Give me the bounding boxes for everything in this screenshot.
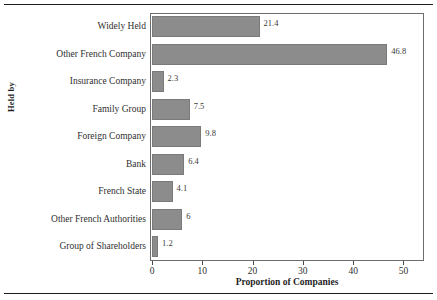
x-axis-title: Proportion of Companies	[150, 277, 424, 287]
bar	[152, 236, 158, 257]
bar-value-label: 6	[186, 211, 190, 221]
y-axis-title: Held by	[6, 82, 16, 112]
x-tick-mark	[253, 261, 254, 265]
category-label: Insurance Company	[70, 76, 146, 87]
x-tick-mark	[303, 261, 304, 265]
category-label: Bank	[126, 159, 146, 170]
bar	[152, 154, 184, 175]
category-label: Foreign Company	[77, 131, 146, 142]
bar	[152, 209, 182, 230]
bar-value-label: 21.4	[264, 18, 279, 28]
x-tick-label: 20	[248, 266, 258, 277]
bar	[152, 44, 387, 65]
bar	[152, 16, 260, 37]
bar-value-label: 46.8	[391, 46, 406, 56]
bar-value-label: 4.1	[177, 183, 188, 193]
x-tick-label: 40	[348, 266, 358, 277]
category-label: Other French Company	[56, 49, 146, 60]
bars-layer: 21.446.82.37.59.86.44.161.2	[150, 13, 424, 261]
bar-value-label: 2.3	[168, 73, 179, 83]
bar	[152, 181, 173, 202]
bar-value-label: 7.5	[194, 101, 205, 111]
category-label: Family Group	[92, 104, 146, 115]
bar-value-label: 1.2	[162, 238, 173, 248]
bar	[152, 126, 201, 147]
bar-value-label: 6.4	[188, 156, 199, 166]
category-label: French State	[98, 186, 146, 197]
bar	[152, 71, 164, 92]
top-divider-rule	[4, 4, 433, 5]
x-tick-mark	[403, 261, 404, 265]
bar-row: 1.2	[150, 233, 424, 261]
x-tick-mark	[202, 261, 203, 265]
x-tick-mark	[353, 261, 354, 265]
category-label: Group of Shareholders	[59, 241, 146, 252]
bar-row: 46.8	[150, 41, 424, 69]
bar-row: 7.5	[150, 96, 424, 124]
x-tick-label: 10	[198, 266, 208, 277]
bar-row: 2.3	[150, 68, 424, 96]
category-label: Widely Held	[98, 21, 146, 32]
x-tick-mark	[152, 261, 153, 265]
bar-row: 6.4	[150, 151, 424, 179]
x-tick-label: 0	[150, 266, 155, 277]
x-tick-label: 50	[399, 266, 409, 277]
x-tick-label: 30	[298, 266, 308, 277]
bar-row: 6	[150, 206, 424, 234]
bar-row: 4.1	[150, 178, 424, 206]
bar-value-label: 9.8	[205, 128, 216, 138]
bar-row: 9.8	[150, 123, 424, 151]
category-label: Other French Authorities	[51, 214, 146, 225]
bar	[152, 99, 190, 120]
bar-row: 21.4	[150, 13, 424, 41]
chart-figure: Held by 21.446.82.37.59.86.44.161.2 Wide…	[0, 0, 437, 300]
bottom-divider-rule	[4, 293, 433, 294]
